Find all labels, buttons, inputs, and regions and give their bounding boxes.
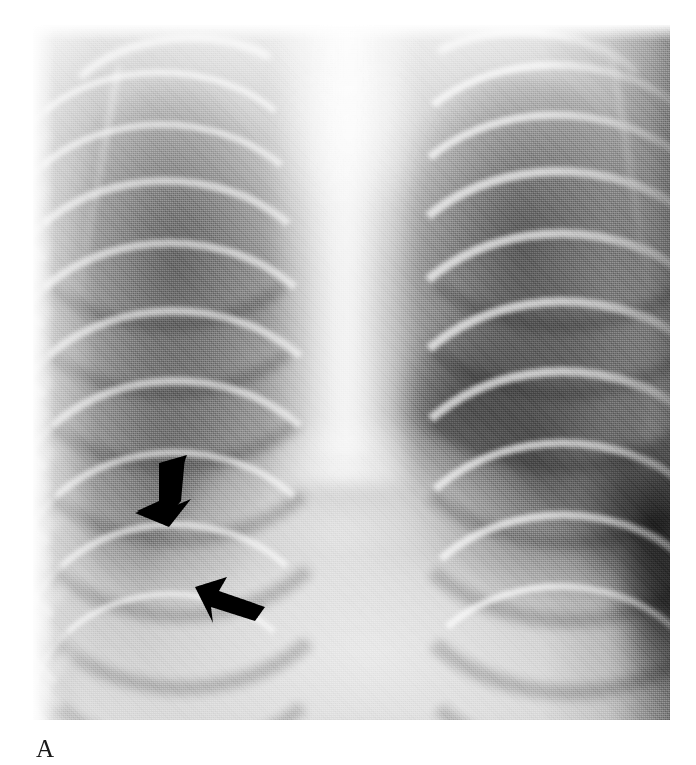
arrow-up-left-icon xyxy=(193,573,267,627)
film-top-edge xyxy=(33,25,670,41)
arrow-down-left-icon xyxy=(129,453,197,529)
annotation-arrow-upper xyxy=(129,453,197,529)
chest-wall xyxy=(33,25,670,720)
film-left-edge xyxy=(33,25,55,720)
panel-label: A xyxy=(36,736,54,761)
chest-radiograph-image xyxy=(33,25,670,720)
figure-page: A xyxy=(0,0,696,765)
annotation-arrow-lower xyxy=(193,573,267,627)
